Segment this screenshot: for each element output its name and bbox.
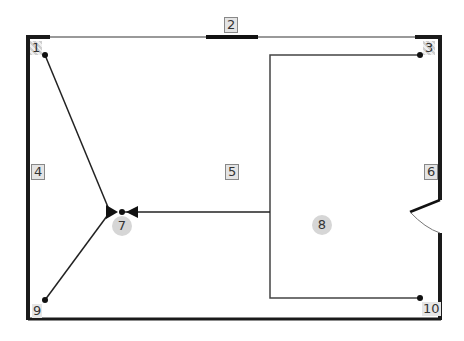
door-leaf <box>410 200 440 212</box>
node-label-4: 4 <box>31 164 45 180</box>
node-label-9: 9 <box>32 304 42 318</box>
junction-dot <box>119 209 125 215</box>
node-label-8: 8 <box>312 215 332 235</box>
node-label-6: 6 <box>424 164 438 180</box>
node-label-3: 3 <box>423 41 435 55</box>
node-label-1: 1 <box>30 41 42 55</box>
node-label-2: 2 <box>224 17 238 33</box>
edge-1-7 <box>45 55 110 212</box>
door-swing-arc <box>410 212 440 233</box>
endpoint-dot-1 <box>42 52 48 58</box>
edge-9-7 <box>45 212 110 300</box>
inner-room-wall <box>270 55 420 298</box>
node-label-5: 5 <box>225 164 239 180</box>
endpoint-dot-9 <box>42 297 48 303</box>
node-label-10: 10 <box>422 302 441 316</box>
arrowhead-right-icon <box>126 206 138 218</box>
node-label-7: 7 <box>112 216 132 236</box>
